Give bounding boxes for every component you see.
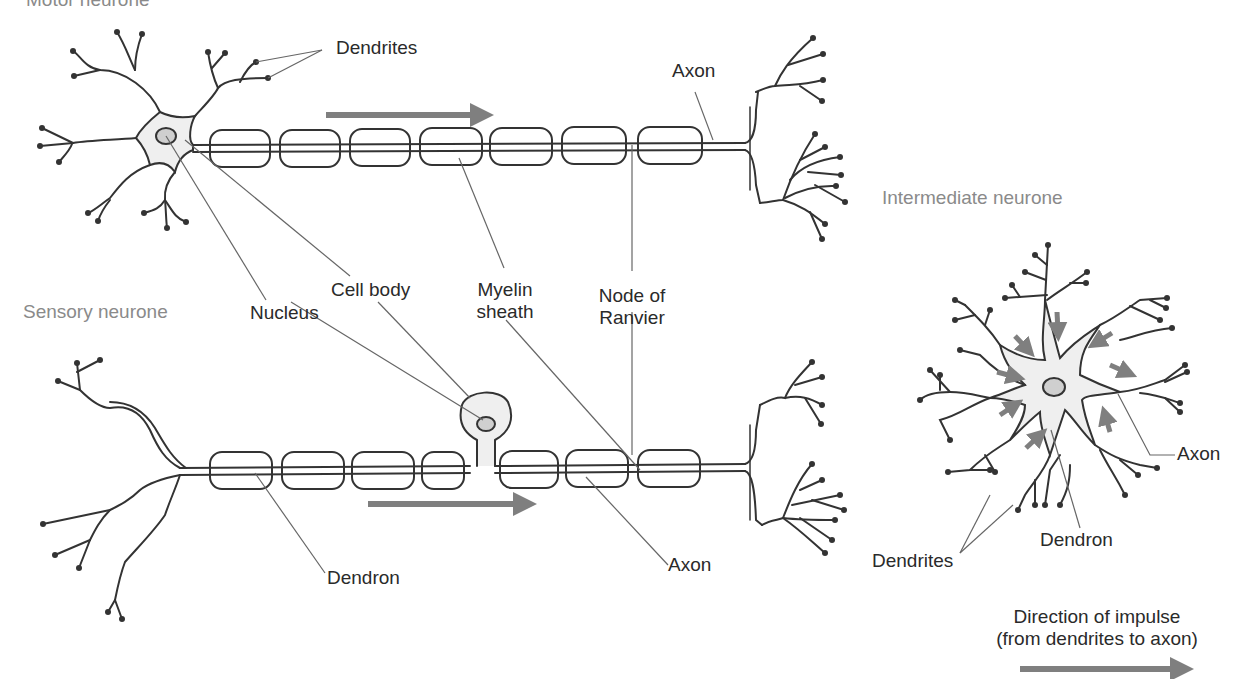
- label-nucleus: Nucleus: [250, 302, 319, 324]
- sensory-neurone-title: Sensory neurone: [23, 301, 168, 323]
- intermediate-nucleus: [1043, 378, 1065, 396]
- sensory-nucleus: [477, 417, 495, 431]
- neurone-diagram: [0, 0, 1250, 679]
- intermediate-neurone-title: Intermediate neurone: [882, 187, 1063, 209]
- label-motor-axon: Axon: [672, 60, 715, 82]
- label-intermediate-dendron: Dendron: [1040, 529, 1113, 551]
- intermediate-neurone: [917, 242, 1190, 513]
- motor-myelin-sheath: [210, 127, 702, 167]
- label-node-of-ranvier: Node of Ranvier: [590, 285, 674, 329]
- label-cell-body: Cell body: [331, 279, 410, 301]
- sensory-myelin-sheath: [210, 450, 700, 489]
- motor-neurone-title: Motor neurone: [26, 0, 150, 11]
- motor-neurone: [37, 29, 848, 242]
- label-myelin-sheath: Myelin sheath: [470, 279, 540, 323]
- label-motor-dendrites: Dendrites: [336, 37, 417, 59]
- label-intermediate-axon: Axon: [1177, 443, 1220, 465]
- legend-direction-of-impulse: Direction of impulse (from dendrites to …: [972, 606, 1222, 650]
- label-intermediate-dendrites: Dendrites: [872, 550, 953, 572]
- label-sensory-axon: Axon: [668, 554, 711, 576]
- label-sensory-dendron: Dendron: [327, 567, 400, 589]
